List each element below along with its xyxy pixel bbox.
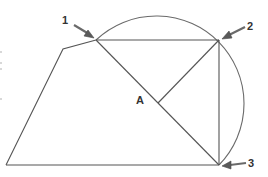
polygon-left-edges — [6, 40, 96, 165]
label-point-A: A — [136, 94, 144, 106]
segment-2-A — [158, 40, 219, 103]
edge-mark — [0, 62, 2, 64]
edge-mark — [0, 51, 2, 53]
edge-mark — [0, 68, 2, 70]
arrow-icon-point-3 — [222, 161, 246, 169]
arrow-icon-point-2 — [222, 27, 245, 39]
label-point-1: 1 — [62, 14, 68, 26]
edge-mark — [0, 98, 2, 100]
geometry-diagram: 1 2 3 A — [0, 0, 268, 177]
arrow-icon-point-1 — [74, 25, 94, 38]
label-point-3: 3 — [248, 157, 254, 169]
label-point-2: 2 — [247, 20, 253, 32]
